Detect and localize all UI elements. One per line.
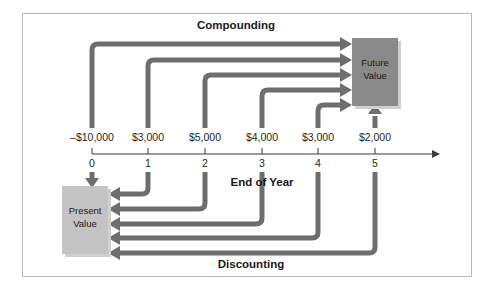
compounding-label: Compounding bbox=[197, 19, 275, 31]
present-value-label-line1: Present bbox=[69, 205, 102, 216]
compound-path-year-1 bbox=[148, 60, 340, 128]
discount-path-year-0-group bbox=[85, 172, 99, 188]
amount-label-year-3: $4,000 bbox=[246, 131, 278, 143]
amount-label-year-0: –$10,000 bbox=[70, 131, 114, 143]
compound-path-year-0 bbox=[92, 44, 340, 128]
compounding-flows bbox=[92, 44, 340, 128]
fv-arrowhead-1 bbox=[340, 37, 352, 51]
amount-label-year-1: $3,000 bbox=[132, 131, 164, 143]
year-label-3: 3 bbox=[259, 157, 265, 169]
year-label-1: 1 bbox=[145, 157, 151, 169]
year-label-0: 0 bbox=[89, 157, 95, 169]
discount-path-year-2 bbox=[120, 172, 205, 209]
future-value-arrowheads bbox=[340, 37, 352, 112]
amount-label-year-5: $2,000 bbox=[359, 131, 391, 143]
fv-arrowhead-3 bbox=[340, 68, 352, 82]
present-value-label-line2: Value bbox=[73, 218, 97, 229]
compound-path-year-3 bbox=[262, 90, 340, 128]
amount-label-year-4: $3,000 bbox=[302, 131, 334, 143]
fv-arrowhead-2 bbox=[340, 53, 352, 67]
future-value-label-line2: Value bbox=[363, 70, 387, 81]
end-of-year-label: End of Year bbox=[230, 176, 294, 188]
compound-path-year-4 bbox=[318, 105, 340, 128]
year-label-2: 2 bbox=[202, 157, 208, 169]
year-labels: 0 1 2 3 4 5 bbox=[89, 157, 378, 169]
year-label-4: 4 bbox=[315, 157, 321, 169]
axis-arrowhead bbox=[432, 150, 440, 158]
future-value-label-line1: Future bbox=[361, 57, 388, 68]
cash-flow-amount-labels: –$10,000 $3,000 $5,000 $4,000 $3,000 $2,… bbox=[70, 131, 391, 143]
cash-flow-diagram: Future Value Compounding –$10,000 $3,000… bbox=[0, 0, 496, 293]
fv-arrowhead-4 bbox=[340, 83, 352, 97]
discounting-label: Discounting bbox=[218, 258, 284, 270]
year-label-5: 5 bbox=[372, 157, 378, 169]
fv-arrowhead-5 bbox=[340, 98, 352, 112]
screenshot-stage: Future Value Compounding –$10,000 $3,000… bbox=[0, 0, 496, 293]
amount-label-year-2: $5,000 bbox=[189, 131, 221, 143]
discount-path-year-1 bbox=[120, 172, 148, 194]
